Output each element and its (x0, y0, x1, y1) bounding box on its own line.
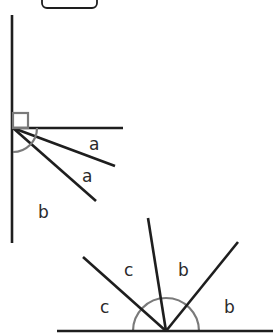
angle-label-c: c (124, 260, 133, 280)
angle-label-b: b (224, 297, 235, 317)
ray-middle (148, 218, 166, 331)
ray-2 (13, 128, 96, 201)
angle-diagram: a a b c b c b (0, 0, 273, 336)
title-box (42, 0, 97, 8)
angle-label-a: a (89, 134, 99, 154)
ray-right (166, 242, 238, 331)
angle-label-a: a (82, 166, 92, 186)
right-angle-marker (13, 113, 28, 128)
figure-1-right-angle: a a b (12, 15, 123, 243)
angle-label-c: c (100, 297, 109, 317)
figure-2-straight-line: c b c b (57, 218, 273, 331)
angle-label-b: b (178, 260, 189, 280)
angle-label-b: b (38, 202, 49, 222)
